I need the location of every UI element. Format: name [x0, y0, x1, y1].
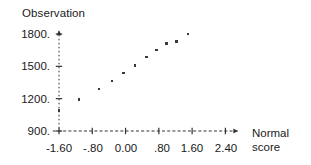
- data-point: [122, 72, 125, 75]
- data-point: [78, 98, 81, 101]
- data-point: [58, 109, 61, 112]
- data-point: [111, 80, 114, 83]
- data-point: [187, 33, 190, 36]
- data-point: [155, 49, 158, 52]
- data-point: [165, 42, 168, 45]
- data-point: [145, 56, 148, 59]
- data-point: [175, 40, 178, 43]
- normal-probability-plot: Observation Normal score 1800. 1500. 120…: [0, 0, 311, 165]
- data-point: [134, 64, 137, 67]
- data-point-layer: [0, 0, 311, 165]
- data-point: [98, 88, 101, 91]
